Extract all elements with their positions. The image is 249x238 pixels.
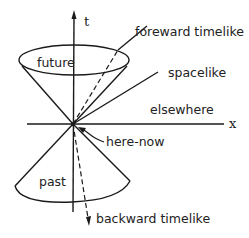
backward-timelike-line-dashed: [73, 124, 88, 218]
past-region-label: past: [39, 174, 66, 189]
here-now-label: here-now: [106, 134, 164, 149]
light-cone-diagram: x t future past foreward timelike spacel…: [0, 0, 249, 238]
elsewhere-region-label: elsewhere: [150, 102, 214, 117]
backward-timelike-label: backward timelike: [96, 211, 210, 226]
backward-timelike-arrowhead-icon: [86, 216, 91, 226]
here-now-pointer: [84, 130, 104, 142]
t-axis-label: t: [84, 14, 90, 29]
spacelike-label: spacelike: [168, 65, 226, 80]
spacelike-line: [73, 72, 158, 124]
here-now-origin-point: [71, 122, 75, 126]
past-cone-right-edge: [73, 124, 130, 181]
forward-timelike-label: foreward timelike: [135, 24, 244, 39]
future-region-label: future: [37, 55, 75, 70]
forward-timelike-line-dashed: [73, 50, 118, 124]
t-axis-arrowhead-icon: [72, 10, 77, 19]
x-axis-label: x: [229, 116, 237, 131]
